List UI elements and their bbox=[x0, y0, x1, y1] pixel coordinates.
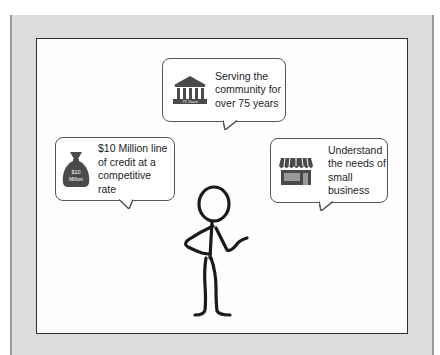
bubble-tail bbox=[319, 201, 333, 211]
speech-bubble-small-business: Understand the needs of small business bbox=[270, 138, 388, 203]
bubble-text-credit: $10 Million line of credit at a competit… bbox=[98, 142, 167, 196]
speech-bubble-community: 75 Years Serving the community for over … bbox=[162, 58, 286, 122]
storefront-icon bbox=[278, 156, 314, 186]
bubble-text-small-business: Understand the needs of small business bbox=[328, 144, 386, 198]
svg-text:$10: $10 bbox=[71, 169, 80, 175]
bubble-tail bbox=[223, 120, 237, 130]
bubble-text-community: Serving the community for over 75 years bbox=[215, 70, 281, 111]
money-bag-icon: $10 Million bbox=[61, 150, 91, 188]
svg-text:Million: Million bbox=[69, 176, 83, 182]
bubble-tail bbox=[119, 199, 133, 209]
bank-building-icon: 75 Years bbox=[171, 75, 209, 105]
speech-bubble-credit: $10 Million $10 Million line of credit a… bbox=[55, 137, 175, 201]
svg-text:75 Years: 75 Years bbox=[182, 99, 198, 104]
stick-figure-presenter bbox=[170, 180, 270, 325]
